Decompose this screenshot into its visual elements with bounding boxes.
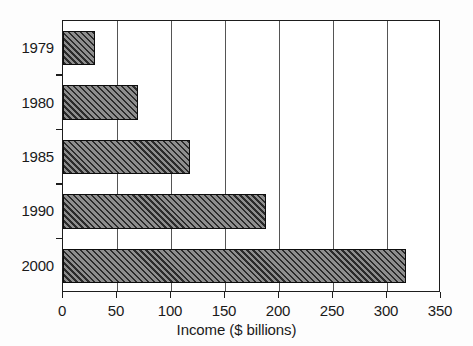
plot-area	[62, 20, 440, 292]
y-tick	[56, 74, 62, 75]
x-tick	[386, 292, 387, 298]
y-tick-label-2000: 2000	[2, 258, 54, 273]
x-tick-label: 50	[86, 303, 146, 318]
bar-1980	[63, 85, 138, 119]
y-tick	[56, 183, 62, 184]
bar-1990	[63, 194, 266, 228]
x-tick-label: 200	[248, 303, 308, 318]
x-tick	[332, 292, 333, 298]
x-tick	[278, 292, 279, 298]
y-tick-label-1980: 1980	[2, 95, 54, 110]
y-tick	[56, 129, 62, 130]
y-tick-label-1985: 1985	[2, 149, 54, 164]
bar-chart: 050100150200250300350 197919801985199020…	[0, 0, 473, 346]
x-tick	[170, 292, 171, 298]
x-tick-label: 150	[194, 303, 254, 318]
y-tick	[56, 238, 62, 239]
x-tick	[62, 292, 63, 298]
x-tick	[440, 292, 441, 298]
x-tick-label: 350	[410, 303, 470, 318]
bar-1985	[63, 140, 190, 174]
y-tick-label-1990: 1990	[2, 203, 54, 218]
x-tick-label: 100	[140, 303, 200, 318]
x-tick	[224, 292, 225, 298]
x-tick-label: 300	[356, 303, 416, 318]
x-tick-label: 0	[32, 303, 92, 318]
bar-2000	[63, 249, 406, 283]
bar-1979	[63, 31, 95, 65]
x-tick-label: 250	[302, 303, 362, 318]
x-tick	[116, 292, 117, 298]
y-tick-label-1979: 1979	[2, 40, 54, 55]
bars-layer	[63, 21, 439, 291]
x-axis-label: Income ($ billions)	[0, 321, 473, 338]
